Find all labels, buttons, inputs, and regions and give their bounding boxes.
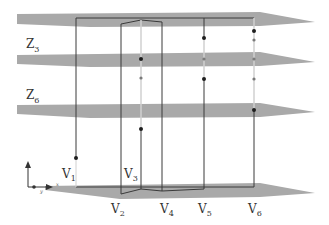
node-v3-c: [139, 127, 143, 131]
node-v3-b: [139, 76, 142, 79]
node-v5-c: [202, 77, 206, 81]
plane-z6: [17, 103, 315, 118]
label-v2: V2: [110, 202, 125, 218]
label-z3: Z3: [26, 37, 39, 54]
node-v5-b: [202, 57, 205, 60]
label-v3: V3: [123, 167, 138, 183]
plane-z3: [17, 52, 315, 67]
label-v6: V6: [247, 202, 262, 218]
label-v1: V1: [61, 167, 76, 183]
plane-top: [17, 12, 315, 27]
node-v6-a: [252, 29, 256, 33]
node-v1: [74, 156, 78, 160]
axis-label-x: x: [56, 181, 59, 187]
node-v6-b: [252, 38, 255, 41]
axis-label-y: y: [39, 188, 43, 195]
node-v6-c: [252, 57, 255, 60]
layered-diagram: x y Z3 Z6 V1 V2 V3 V4 V5 V6: [0, 0, 329, 225]
label-v4: V4: [159, 202, 174, 218]
plane-bottom: [45, 183, 315, 199]
node-v5-a: [202, 36, 206, 40]
node-v3-a: [139, 57, 143, 61]
node-v6-e: [252, 108, 256, 112]
label-v5: V5: [197, 202, 212, 218]
label-z6: Z6: [26, 88, 39, 105]
node-v6-d: [252, 77, 255, 80]
